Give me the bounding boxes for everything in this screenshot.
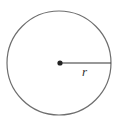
radius-label: r — [82, 64, 88, 79]
circle-diagram: r — [0, 0, 118, 124]
center-point — [57, 60, 62, 65]
